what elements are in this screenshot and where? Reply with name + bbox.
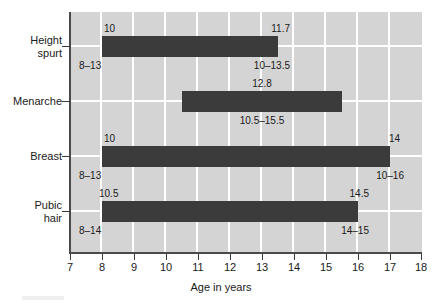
- x-tick-11: [198, 254, 199, 260]
- value-height-spurt-above-right: 11.7: [271, 23, 290, 34]
- value-breast-below-right: 10–16: [376, 170, 404, 181]
- value-pubic-hair-above-left: 10.5: [99, 188, 118, 199]
- value-pubic-hair-below-right: 14–15: [341, 225, 369, 236]
- x-tick-10: [166, 254, 167, 260]
- value-height-spurt-below-right: 10–13.5: [254, 60, 290, 71]
- x-tick-18: [421, 254, 422, 260]
- value-height-spurt-below-left: 8–13: [79, 60, 101, 71]
- value-menarche-below: 10.5–15.5: [240, 115, 285, 126]
- y-tick-pubic-hair: [62, 211, 70, 212]
- x-tick-16: [358, 254, 359, 260]
- value-height-spurt-above-left: 10: [104, 23, 115, 34]
- x-tick-label-9: 9: [131, 261, 137, 273]
- category-label-height-spurt: Height spurt: [0, 34, 62, 59]
- scan-artifact: [22, 296, 64, 300]
- x-axis-title: Age in years: [0, 281, 442, 293]
- category-label-menarche: Menarche: [0, 95, 62, 108]
- value-breast-below-left: 8–13: [79, 170, 101, 181]
- value-menarche-above: 12.8: [252, 78, 271, 89]
- x-tick-label-17: 17: [384, 261, 396, 273]
- x-tick-label-15: 15: [320, 261, 332, 273]
- x-tick-label-10: 10: [160, 261, 172, 273]
- puberty-milestones-chart: Height spurt Menarche Breast Pubic hair …: [0, 0, 442, 307]
- x-axis-line: [69, 252, 422, 254]
- category-label-breast: Breast: [0, 150, 62, 163]
- y-tick-height-spurt: [62, 46, 70, 47]
- x-tick-9: [134, 254, 135, 260]
- x-tick-17: [390, 254, 391, 260]
- x-tick-15: [326, 254, 327, 260]
- y-tick-menarche: [62, 101, 70, 102]
- x-tick-label-16: 16: [352, 261, 364, 273]
- y-tick-breast: [62, 156, 70, 157]
- x-tick-label-8: 8: [99, 261, 105, 273]
- value-breast-above-left: 10: [104, 133, 115, 144]
- x-tick-label-12: 12: [224, 261, 236, 273]
- value-pubic-hair-below-left: 8–14: [79, 225, 101, 236]
- x-tick-8: [102, 254, 103, 260]
- x-tick-13: [262, 254, 263, 260]
- x-tick-label-18: 18: [415, 261, 427, 273]
- bar-pubic-hair: [102, 201, 358, 222]
- x-tick-14: [294, 254, 295, 260]
- y-axis-line: [69, 12, 71, 253]
- plot-area: [70, 12, 422, 252]
- x-tick-label-14: 14: [288, 261, 300, 273]
- value-breast-above-right: 14: [389, 133, 400, 144]
- x-tick-label-11: 11: [192, 261, 203, 273]
- bar-menarche: [182, 91, 342, 112]
- gridline-17: [388, 12, 390, 252]
- x-tick-label-13: 13: [256, 261, 268, 273]
- x-tick-12: [230, 254, 231, 260]
- bar-breast: [102, 146, 390, 167]
- bar-height-spurt: [102, 36, 278, 57]
- x-tick-label-7: 7: [67, 261, 73, 273]
- value-pubic-hair-above-right: 14.5: [350, 188, 369, 199]
- category-label-pubic-hair: Pubic hair: [0, 199, 62, 224]
- x-tick-7: [70, 254, 71, 260]
